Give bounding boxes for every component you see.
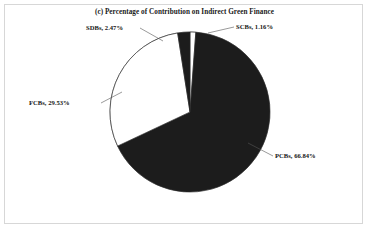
leader-line-sdbs <box>140 28 163 41</box>
slice-label-pcbs: PCBs, 66.84% <box>275 152 316 159</box>
pie-slice-group: SCBs, 1.16%PCBs, 66.84%FCBs, 29.53%SDBs,… <box>110 32 270 192</box>
pie-chart-canvas: SCBs, 1.16%PCBs, 66.84%FCBs, 29.53%SDBs,… <box>0 0 369 230</box>
slice-label-fcbs: FCBs, 29.53% <box>29 99 70 106</box>
slice-label-sdbs: SDBs, 2.47% <box>86 24 123 31</box>
pie-chart-figure: (c) Percentage of Contribution on Indire… <box>0 0 369 230</box>
slice-label-scbs: SCBs, 1.16% <box>236 23 273 30</box>
leader-line-scbs <box>208 27 234 33</box>
